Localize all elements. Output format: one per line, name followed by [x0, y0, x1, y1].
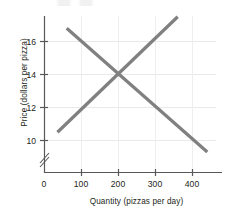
horizontal-gridlines: [44, 42, 216, 141]
plot-area: [0, 0, 229, 213]
supply-demand-chart: Price (dollars per pizza) Quantity (pizz…: [0, 0, 229, 213]
demand-curve: [67, 28, 208, 152]
